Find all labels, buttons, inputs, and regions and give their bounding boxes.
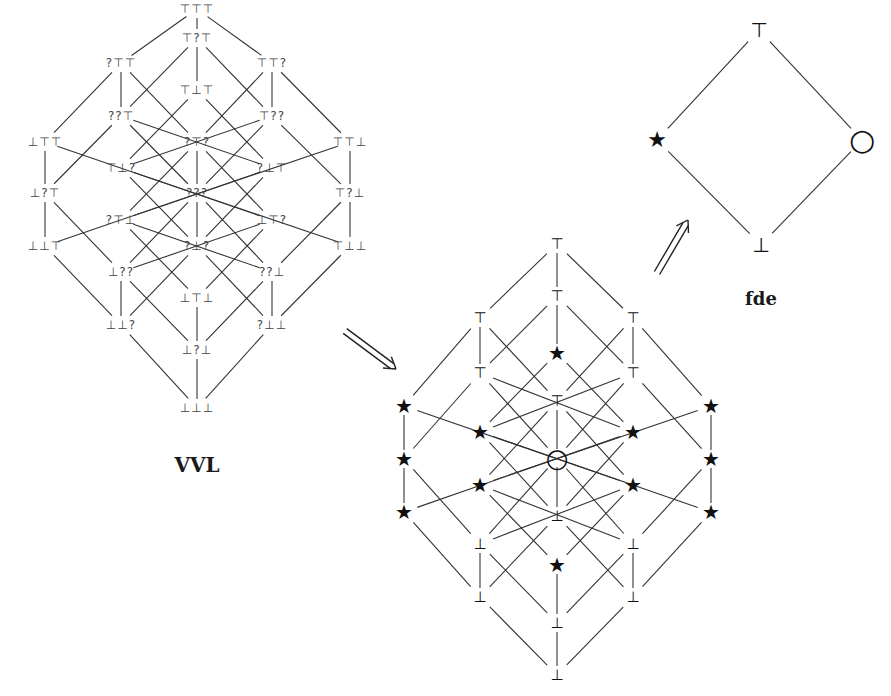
vvl-edge — [54, 202, 112, 262]
vvl-node: ⊤⊥⊥ — [333, 239, 367, 253]
bottom-symbol: ⊥ — [626, 590, 639, 605]
top-symbol: ⊤ — [626, 311, 639, 326]
vvl-edge — [281, 72, 341, 132]
bottom-symbol: ⊥ — [626, 537, 639, 552]
vvl-edge — [281, 202, 341, 262]
star-icon: ★ — [702, 502, 720, 522]
mapped-edge — [413, 329, 471, 396]
fde-edge — [772, 152, 851, 234]
fde-edge — [668, 42, 748, 129]
top-symbol: ⊤ — [473, 366, 486, 381]
mapped-edge — [567, 607, 623, 665]
vvl-node: ⊥⊤⊤ — [28, 135, 62, 149]
vvl-node: ⊤⊥⊤ — [180, 83, 214, 97]
star-icon: ★ — [624, 422, 642, 442]
mapped-edge — [567, 254, 623, 308]
vvl-caption: VVL — [174, 453, 219, 477]
star-icon: ★ — [395, 396, 413, 416]
mapped-edge — [493, 437, 698, 508]
vvl-node: ⊥⊥⊤ — [28, 239, 62, 253]
vvl-edge — [57, 172, 259, 242]
vvl-node: ⊥⊥? — [106, 318, 136, 332]
vvl-edge — [54, 255, 112, 315]
mapped-edge — [413, 522, 470, 586]
vvl-node: ⊥⊥⊥ — [180, 401, 214, 415]
vvl-node: ??⊥ — [259, 265, 285, 279]
vvl-node: ⊥?⊥ — [182, 343, 212, 357]
vvl-edge — [206, 255, 263, 315]
star-icon: ★ — [471, 422, 489, 442]
mapped-edge — [490, 607, 547, 665]
lattice-diagram — [0, 0, 891, 696]
circle-icon: ○ — [546, 445, 569, 471]
vvl-to-mapped-arrow — [343, 329, 396, 369]
mapped-edge — [567, 526, 624, 587]
top-symbol: ⊤ — [473, 311, 486, 326]
mapped-edge — [642, 383, 701, 448]
vvl-node: ⊤⊤? — [257, 56, 287, 70]
vvl-node: ⊥⊤? — [257, 213, 287, 227]
mapped-edge — [490, 254, 547, 309]
vvl-node: ⊤?⊥ — [335, 186, 365, 200]
vvl-edge — [130, 72, 188, 132]
mapped-edge — [567, 495, 624, 555]
vvl-node: ⊤⊥? — [106, 161, 136, 175]
vvl-node: ?⊥⊥ — [257, 318, 287, 332]
star-icon: ★ — [395, 502, 413, 522]
mapped-edge — [567, 306, 623, 363]
mapped-edge — [490, 328, 548, 390]
vvl-edge — [130, 202, 188, 262]
mapped-edge — [642, 328, 701, 395]
mapped-edge — [642, 522, 701, 586]
mapped-edge — [417, 437, 620, 508]
top-symbol: ⊤ — [550, 237, 563, 252]
vvl-node: ??⊤ — [108, 109, 134, 123]
bottom-symbol: ⊥ — [550, 616, 563, 631]
fde-star-icon: ★ — [647, 129, 667, 151]
star-icon: ★ — [702, 396, 720, 416]
fde-circle-icon: ○ — [849, 125, 875, 155]
vvl-node: ⊤⊤⊥ — [333, 135, 367, 149]
top-symbol: ⊤ — [550, 394, 563, 409]
vvl-node: ?⊥⊤ — [257, 161, 287, 175]
star-icon: ★ — [548, 343, 566, 363]
vvl-edge — [130, 335, 188, 399]
top-symbol: ⊤ — [626, 366, 639, 381]
top-symbol: ⊤ — [550, 289, 563, 304]
mapped-edge — [490, 526, 548, 587]
vvl-edge — [132, 17, 187, 56]
vvl-edge — [206, 335, 264, 399]
vvl-edge — [281, 255, 341, 315]
vvl-node: ?⊤? — [184, 135, 210, 149]
mapped-edge — [413, 383, 470, 448]
vvl-edge — [206, 229, 263, 288]
vvl-node: ?⊤⊤ — [106, 56, 136, 70]
vvl-node: ?⊤⊥ — [106, 213, 136, 227]
fde-edge — [668, 151, 749, 233]
bottom-symbol: ⊥ — [473, 590, 486, 605]
vvl-edge — [281, 125, 340, 184]
vvl-node: ⊤?? — [259, 109, 285, 123]
mapped-edge — [490, 554, 547, 613]
star-icon: ★ — [624, 475, 642, 495]
star-icon: ★ — [395, 449, 413, 469]
mapped-edge — [642, 469, 701, 533]
fde-bottom-symbol: ⊥ — [752, 235, 769, 255]
mapped-edge — [413, 469, 470, 533]
mapped-edge — [489, 468, 547, 533]
vvl-edge — [206, 47, 263, 106]
mapped-to-fde-arrow — [654, 220, 688, 275]
mapped-edge — [490, 306, 547, 363]
mapped-edge — [567, 363, 624, 422]
bottom-symbol: ⊥ — [550, 668, 563, 683]
vvl-edge — [206, 72, 263, 132]
bottom-symbol: ⊥ — [550, 509, 563, 524]
vvl-edge — [206, 281, 263, 340]
vvl-edge — [206, 177, 263, 236]
fde-edge — [770, 42, 851, 129]
star-icon: ★ — [471, 475, 489, 495]
star-icon: ★ — [548, 555, 566, 575]
star-icon: ★ — [702, 449, 720, 469]
vvl-node: ⊥?⊤ — [30, 186, 60, 200]
vvl-node: ⊥?? — [108, 265, 134, 279]
